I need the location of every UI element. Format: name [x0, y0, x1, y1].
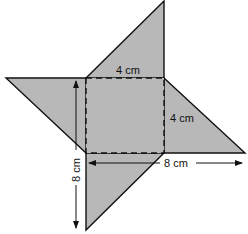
label-vertical-span: 8 cm [70, 158, 82, 182]
label-top-side: 4 cm [116, 64, 140, 76]
triangle-face-left [6, 78, 86, 153]
label-horizontal-span: 8 cm [164, 157, 188, 169]
triangle-face-bottom [86, 153, 164, 230]
square-base [86, 78, 164, 153]
label-right-side: 4 cm [170, 112, 194, 124]
pyramid-net-diagram: 4 cm 4 cm 8 cm 8 cm [0, 0, 248, 234]
